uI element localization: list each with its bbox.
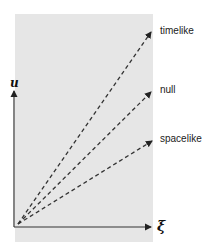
null-line	[18, 92, 151, 224]
spacelike-line	[18, 141, 152, 224]
timelike-line	[18, 32, 151, 224]
spacetime-diagram	[0, 0, 211, 250]
xi-axis-label: ξ	[157, 218, 165, 234]
u-axis-label: u	[10, 76, 19, 90]
null-label: null	[160, 84, 176, 95]
spacelike-label: spacelike	[160, 133, 202, 144]
timelike-label: timelike	[160, 25, 194, 36]
